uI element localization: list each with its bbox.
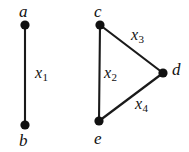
vertex-label-a: a — [19, 3, 28, 20]
vertex-label-c: c — [94, 3, 102, 20]
edge-x2 — [99, 25, 100, 121]
edge-label-x1-subscript: 1 — [42, 71, 48, 83]
graph-diagram-figure: a b c d e x1 x2 x3 x4 — [0, 0, 189, 152]
vertex-a — [20, 20, 29, 29]
vertex-label-d: d — [172, 61, 181, 78]
edge-label-x1: x1 — [35, 65, 48, 83]
edge-label-x3: x3 — [131, 27, 144, 45]
edge-label-x2-subscript: 2 — [111, 71, 117, 83]
vertex-d — [158, 68, 167, 77]
vertex-c — [95, 20, 104, 29]
edge-label-x2: x2 — [104, 65, 117, 83]
vertex-e — [94, 116, 103, 125]
edge-label-x3-subscript: 3 — [138, 33, 144, 45]
edge-label-x4-subscript: 4 — [142, 102, 148, 114]
vertex-b — [20, 120, 29, 129]
vertex-label-e: e — [94, 130, 102, 147]
edge-label-x4: x4 — [135, 96, 148, 114]
vertex-label-b: b — [19, 132, 28, 149]
